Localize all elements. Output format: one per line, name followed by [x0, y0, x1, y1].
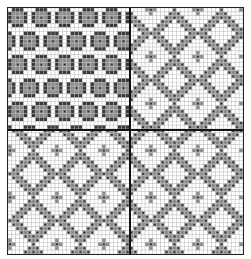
- knitting-chart: [7, 7, 244, 255]
- horizontal-divider: [8, 129, 243, 131]
